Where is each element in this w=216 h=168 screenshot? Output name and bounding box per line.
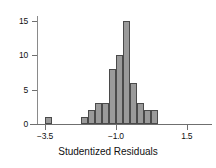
y-tick-mark xyxy=(32,21,37,22)
histogram-bar xyxy=(144,110,151,124)
y-tick-label: 10 xyxy=(6,51,28,60)
y-tick-label: 15 xyxy=(6,17,28,26)
x-tick-mark xyxy=(116,125,117,130)
x-tick-mark xyxy=(45,125,46,130)
x-tick-label: −1.0 xyxy=(99,132,133,141)
x-axis-line xyxy=(30,124,212,125)
histogram-bar xyxy=(95,103,102,124)
histogram-bar xyxy=(123,21,130,124)
histogram-bar xyxy=(45,117,52,124)
histogram-bars xyxy=(38,14,208,124)
x-tick-label: −3.5 xyxy=(28,132,62,141)
histogram-bar xyxy=(109,69,116,124)
histogram-bar xyxy=(151,110,158,124)
histogram-bar xyxy=(116,55,123,124)
histogram-bar xyxy=(102,103,109,124)
x-tick-label: 1.5 xyxy=(170,132,204,141)
x-tick-mark xyxy=(187,125,188,130)
histogram-bar xyxy=(130,83,137,124)
histogram-chart: 051015 −3.5−1.01.5 Studentized Residuals xyxy=(0,0,216,168)
y-tick-mark xyxy=(32,90,37,91)
histogram-bar xyxy=(81,117,88,124)
y-tick-mark xyxy=(32,55,37,56)
histogram-bar xyxy=(88,110,95,124)
y-tick-label: 5 xyxy=(6,86,28,95)
y-tick-label: 0 xyxy=(6,120,28,129)
x-axis-title: Studentized Residuals xyxy=(0,146,216,157)
histogram-bar xyxy=(137,103,144,124)
